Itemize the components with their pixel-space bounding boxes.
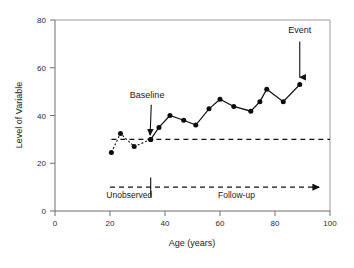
x-tick-label-20: 20: [106, 219, 115, 228]
y-tick-label-40: 40: [37, 112, 46, 121]
event-annotation-label: Event: [288, 25, 312, 35]
x-axis-tick-labels: 0 20 40 60 80 100: [53, 219, 337, 228]
annotation-arrows: [150, 41, 300, 135]
data-point: [257, 99, 262, 104]
reference-lines: [110, 139, 330, 187]
x-tick-label-40: 40: [161, 219, 170, 228]
plot-frame: [55, 20, 330, 211]
line-chart: 0 20 40 60 80 0 20 40 60 80 100 Age (yea…: [0, 0, 354, 268]
data-point: [132, 144, 137, 149]
data-point: [156, 125, 161, 130]
y-tick-label-20: 20: [37, 159, 46, 168]
y-tick-label-80: 80: [37, 16, 46, 25]
x-axis-title: Age (years): [169, 238, 216, 248]
x-tick-label-100: 100: [323, 219, 337, 228]
y-axis-title: Level of Variable: [14, 82, 24, 148]
x-axis-ticks: [55, 211, 330, 216]
annotation-labels: BaselineEvent: [130, 25, 312, 99]
x-tick-label-60: 60: [216, 219, 225, 228]
data-point: [148, 137, 153, 142]
y-axis-tick-labels: 0 20 40 60 80: [37, 16, 46, 216]
data-point: [167, 113, 172, 118]
data-point: [118, 131, 123, 136]
series-line-unobserved: [111, 133, 150, 152]
data-point: [218, 97, 223, 102]
period-label-follow-up: Follow-up: [218, 190, 255, 200]
chart-figure: 0 20 40 60 80 0 20 40 60 80 100 Age (yea…: [0, 0, 354, 268]
x-tick-label-80: 80: [271, 219, 280, 228]
data-point: [281, 99, 286, 104]
data-point: [264, 87, 269, 92]
y-tick-label-0: 0: [42, 207, 47, 216]
period-label-unobserved: Unobserved: [106, 190, 152, 200]
baseline-annotation-label: Baseline: [130, 90, 165, 100]
data-point: [231, 104, 236, 109]
data-point: [193, 123, 198, 128]
data-point: [181, 118, 186, 123]
y-tick-label-60: 60: [37, 64, 46, 73]
y-axis-ticks: [50, 20, 55, 211]
period-labels: UnobservedFollow-up: [106, 190, 255, 200]
baseline-annotation-arrow: [150, 105, 151, 135]
series-line-follow-up: [151, 84, 300, 139]
data-point: [207, 106, 212, 111]
data-point: [297, 82, 302, 87]
x-tick-label-0: 0: [53, 219, 58, 228]
data-point: [248, 109, 253, 114]
data-point: [109, 150, 114, 155]
